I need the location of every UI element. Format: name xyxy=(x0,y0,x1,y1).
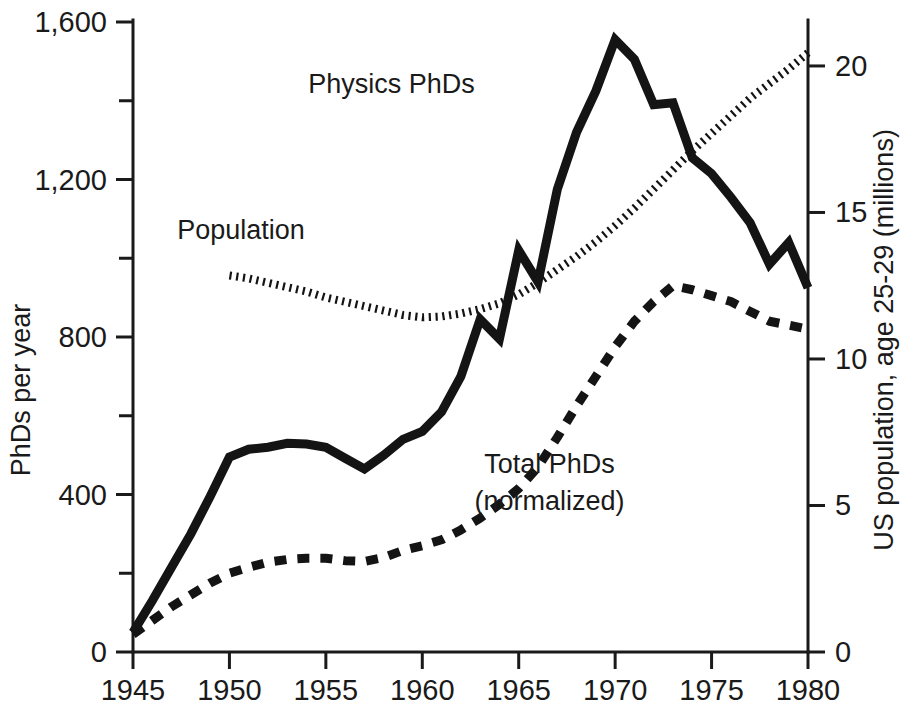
x-tick-label: 1960 xyxy=(390,674,455,706)
x-tick-label: 1975 xyxy=(679,674,744,706)
series-physics-phds-line xyxy=(133,40,808,633)
line-chart: 04008001,2001,600 05101520 1945195019551… xyxy=(0,0,914,712)
left-axis-ticks xyxy=(116,22,133,652)
right-axis-tick-labels: 05101520 xyxy=(835,50,867,668)
left-axis-tick-labels: 04008001,2001,600 xyxy=(34,6,107,668)
x-tick-label: 1955 xyxy=(294,674,359,706)
right-tick-label: 5 xyxy=(835,489,851,521)
left-tick-label: 800 xyxy=(59,321,107,353)
left-tick-label: 0 xyxy=(91,636,107,668)
x-tick-label: 1945 xyxy=(101,674,166,706)
series-label-total-phds: Total PhDs xyxy=(484,449,615,479)
left-axis-title: PhDs per year xyxy=(6,304,36,477)
left-tick-label: 400 xyxy=(59,479,107,511)
x-tick-label: 1970 xyxy=(583,674,648,706)
right-tick-label: 0 xyxy=(835,636,851,668)
x-axis-ticks xyxy=(133,652,808,669)
x-tick-label: 1950 xyxy=(197,674,262,706)
right-tick-label: 10 xyxy=(835,343,867,375)
left-tick-label: 1,600 xyxy=(34,6,107,38)
x-tick-label: 1965 xyxy=(486,674,551,706)
series-label-total-phds-normalized: (normalized) xyxy=(475,486,625,516)
right-axis-ticks xyxy=(808,66,825,652)
series-label-population: Population xyxy=(177,215,305,245)
x-axis-tick-labels: 19451950195519601965197019751980 xyxy=(101,674,841,706)
right-axis-title: US population, age 25-29 (millions) xyxy=(869,129,899,551)
right-tick-label: 15 xyxy=(835,196,867,228)
series-label-physics-phds: Physics PhDs xyxy=(308,69,475,99)
chart-figure: 04008001,2001,600 05101520 1945195019551… xyxy=(0,0,914,712)
right-tick-label: 20 xyxy=(835,50,867,82)
left-tick-label: 1,200 xyxy=(34,164,107,196)
x-tick-label: 1980 xyxy=(776,674,841,706)
